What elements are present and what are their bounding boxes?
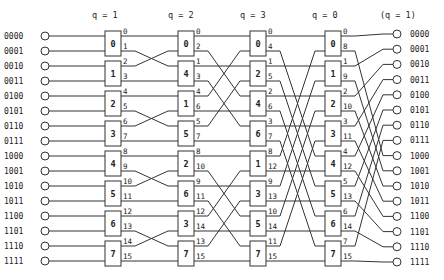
- output-node[interactable]: [393, 228, 401, 236]
- input-label: 1000: [4, 152, 23, 161]
- switch-output-label: 10: [268, 207, 278, 216]
- output-wire: [341, 110, 393, 186]
- switch-output-label: 1: [268, 57, 273, 66]
- output-node[interactable]: [393, 60, 401, 68]
- input-node[interactable]: [41, 257, 49, 265]
- switch-output-label: 3: [268, 117, 273, 126]
- output-node[interactable]: [393, 182, 401, 190]
- switch-output-label: 4: [196, 87, 201, 96]
- interstage-wire: [194, 51, 250, 96]
- switch-output-label: 0: [123, 27, 128, 36]
- switch-number: 6: [183, 189, 188, 199]
- switch-output-label: 15: [268, 252, 277, 261]
- switch-output-label: 10: [343, 102, 353, 111]
- input-node[interactable]: [41, 32, 49, 40]
- switch-output-label: 11: [268, 237, 277, 246]
- output-node[interactable]: [393, 91, 401, 99]
- output-label: 1101: [410, 228, 429, 237]
- switch-output-label: 14: [343, 222, 353, 231]
- input-node[interactable]: [41, 152, 49, 160]
- switch-number: 6: [330, 219, 335, 229]
- switch-output-label: 12: [196, 207, 205, 216]
- interstage-wire: [121, 51, 178, 66]
- input-label: 1010: [4, 182, 23, 191]
- output-node[interactable]: [393, 106, 401, 114]
- switch-output-label: 7: [343, 237, 348, 246]
- switch-output-label: 1: [196, 57, 201, 66]
- input-node[interactable]: [41, 77, 49, 85]
- input-node[interactable]: [41, 182, 49, 190]
- switch-number: 4: [110, 159, 115, 169]
- output-node[interactable]: [393, 136, 401, 144]
- output-label: 0000: [410, 30, 429, 39]
- output-label: 1001: [410, 167, 429, 176]
- switch-number: 2: [330, 99, 335, 109]
- switch-output-label: 2: [196, 42, 201, 51]
- switch-output-label: 15: [343, 252, 352, 261]
- switch-output-label: 3: [343, 117, 348, 126]
- input-node[interactable]: [41, 122, 49, 130]
- switch-output-label: 14: [196, 222, 206, 231]
- network-svg: q = 1q = 2q = 3q = 0(q = 1)0000000100100…: [0, 0, 444, 280]
- input-node[interactable]: [41, 47, 49, 55]
- input-node[interactable]: [41, 92, 49, 100]
- input-label: 0111: [4, 137, 23, 146]
- output-wire: [341, 111, 393, 186]
- switch-number: 5: [330, 189, 335, 199]
- input-node[interactable]: [41, 227, 49, 235]
- output-node[interactable]: [393, 167, 401, 175]
- interstage-wire: [194, 81, 250, 126]
- input-label: 0010: [4, 62, 23, 71]
- switch-number: 5: [255, 219, 260, 229]
- output-wire: [341, 231, 393, 247]
- output-wire: [341, 261, 393, 262]
- stage-header: q = 3: [240, 10, 266, 20]
- switch-output-label: 13: [196, 237, 205, 246]
- switch-output-label: 6: [196, 102, 201, 111]
- butterfly-network-diagram: q = 1q = 2q = 3q = 0(q = 1)0000000100100…: [0, 0, 444, 280]
- input-node[interactable]: [41, 242, 49, 250]
- switch-output-label: 5: [123, 102, 128, 111]
- output-node[interactable]: [393, 76, 401, 84]
- switch-number: 1: [330, 69, 335, 79]
- switch-output-label: 12: [123, 207, 132, 216]
- output-label: 1110: [410, 243, 429, 252]
- output-node[interactable]: [393, 30, 401, 38]
- input-node[interactable]: [41, 137, 49, 145]
- input-node[interactable]: [41, 167, 49, 175]
- switch-number: 6: [110, 219, 115, 229]
- switch-output-label: 15: [123, 252, 132, 261]
- switch-output-label: 4: [123, 87, 128, 96]
- input-node[interactable]: [41, 197, 49, 205]
- output-node[interactable]: [393, 45, 401, 53]
- input-label: 0110: [4, 122, 23, 131]
- input-label: 1101: [4, 227, 23, 236]
- switch-output-label: 7: [268, 132, 273, 141]
- switch-output-label: 1: [123, 42, 128, 51]
- switch-number: 3: [330, 129, 335, 139]
- output-node[interactable]: [393, 152, 401, 160]
- switch-output-label: 2: [268, 87, 273, 96]
- input-node[interactable]: [41, 212, 49, 220]
- input-node[interactable]: [41, 107, 49, 115]
- switch-output-label: 2: [343, 87, 348, 96]
- interstage-wire: [194, 81, 250, 126]
- switch-output-label: 3: [196, 72, 201, 81]
- switch-output-label: 12: [343, 162, 352, 171]
- input-label: 1001: [4, 167, 23, 176]
- switch-number: 7: [183, 249, 188, 259]
- output-node[interactable]: [393, 258, 401, 266]
- switch-output-label: 4: [343, 147, 348, 156]
- switch-output-label: 11: [343, 132, 352, 141]
- output-node[interactable]: [393, 212, 401, 220]
- input-label: 0011: [4, 77, 23, 86]
- input-node[interactable]: [41, 62, 49, 70]
- switch-output-label: 8: [123, 147, 128, 156]
- switch-number: 0: [183, 39, 188, 49]
- output-node[interactable]: [393, 197, 401, 205]
- output-node[interactable]: [393, 243, 401, 251]
- output-node[interactable]: [393, 121, 401, 129]
- output-wire: [341, 34, 393, 36]
- switch-output-label: 8: [196, 147, 201, 156]
- switch-number: 5: [183, 129, 188, 139]
